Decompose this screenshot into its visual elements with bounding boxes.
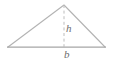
triangle-diagram: h b xyxy=(0,0,113,64)
triangle-graphic xyxy=(0,0,113,64)
height-label: h xyxy=(66,23,72,34)
triangle-sides-path xyxy=(8,5,105,47)
base-label: b xyxy=(64,49,70,60)
